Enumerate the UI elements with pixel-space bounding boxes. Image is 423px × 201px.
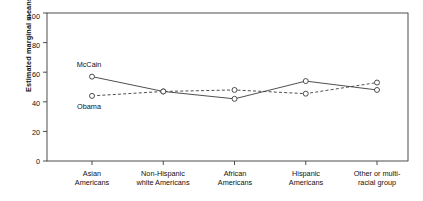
x-tick-label-other-or-multi-racial-group: Other or multi- racial group — [354, 169, 401, 187]
data-point-mccain — [375, 87, 380, 92]
data-point-mccain — [90, 74, 95, 79]
data-point-obama — [161, 89, 166, 94]
chart-container: Estimated marginal means 100 80 60 40 20… — [0, 0, 423, 201]
series-annotation-obama: Obama — [77, 102, 101, 111]
x-tick-line-1: African — [218, 169, 252, 178]
x-tick-line-2: racial group — [354, 178, 401, 187]
data-point-obama — [303, 91, 308, 96]
x-tick-line-2: Americans — [75, 178, 109, 187]
data-point-mccain — [303, 79, 308, 84]
x-tick-label-african-americans: African Americans — [218, 169, 252, 187]
x-tick-line-1: Other or multi- — [354, 169, 401, 178]
x-tick-line-1: Hispanic — [289, 169, 323, 178]
data-point-obama — [232, 87, 237, 92]
x-tick-label-asian-americans: Asian Americans — [75, 169, 109, 187]
x-tick-label-hispanic-americans: Hispanic Americans — [289, 169, 323, 187]
data-point-mccain — [232, 96, 237, 101]
series-annotation-mccain: McCain — [77, 60, 102, 69]
data-point-obama — [375, 80, 380, 85]
data-point-obama — [90, 93, 95, 98]
x-tick-line-2: Americans — [289, 178, 323, 187]
x-tick-line-1: Asian — [75, 169, 109, 178]
x-tick-line-2: Americans — [218, 178, 252, 187]
x-tick-line-2: white Americans — [136, 178, 189, 187]
x-tick-line-1: Non-Hispanic — [136, 169, 189, 178]
x-tick-label-non-hispanic-white-americans: Non-Hispanic white Americans — [136, 169, 189, 187]
